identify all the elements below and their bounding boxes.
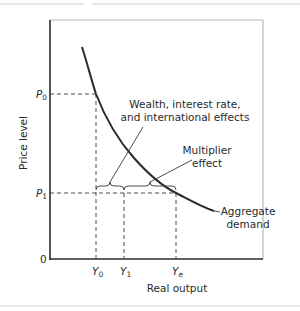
multiplier-annotation-line1: Multiplier <box>183 144 233 156</box>
x-tick-y1: Y1 <box>120 265 131 279</box>
x-tick-ye: Ye <box>172 265 183 279</box>
y-tick-p1: P1 <box>36 187 47 201</box>
wealth-annotation-line2: and international effects <box>121 111 250 123</box>
x-tick-y0: Y0 <box>92 265 103 279</box>
x-axis-title: Real output <box>147 282 208 294</box>
multiplier-leader-line <box>150 160 192 182</box>
wealth-annotation-line1: Wealth, interest rate, <box>129 98 240 110</box>
y-axis-title: Price level <box>17 116 29 170</box>
ad-label-line1: Aggregate <box>221 205 276 217</box>
y-tick-p0: P0 <box>36 88 47 102</box>
origin-label: 0 <box>40 253 47 265</box>
wealth-effect-brace <box>96 182 124 190</box>
ad-leader-line <box>214 211 220 212</box>
wealth-leader-line <box>110 127 143 182</box>
aggregate-demand-chart: Wealth, interest rate, and international… <box>0 0 300 311</box>
multiplier-annotation-line2: effect <box>192 157 222 169</box>
ad-label-line2: demand <box>226 218 269 230</box>
